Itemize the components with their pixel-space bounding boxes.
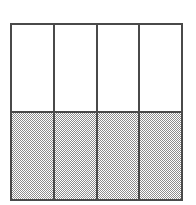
model-column-1 xyxy=(12,25,55,199)
area-model-grid xyxy=(10,23,183,201)
model-cell-c4-r2 xyxy=(140,111,181,199)
model-cell-c4-r1 xyxy=(140,25,181,111)
model-column-4 xyxy=(140,25,181,199)
model-cell-c2-r2 xyxy=(55,111,96,199)
model-cell-c2-r1 xyxy=(55,25,96,111)
model-column-2 xyxy=(55,25,98,199)
model-cell-c1-r2 xyxy=(12,111,53,199)
model-cell-c3-r2 xyxy=(98,111,139,199)
model-cell-c1-r1 xyxy=(12,25,53,111)
figure-canvas xyxy=(0,0,196,205)
model-column-3 xyxy=(98,25,141,199)
model-cell-c3-r1 xyxy=(98,25,139,111)
